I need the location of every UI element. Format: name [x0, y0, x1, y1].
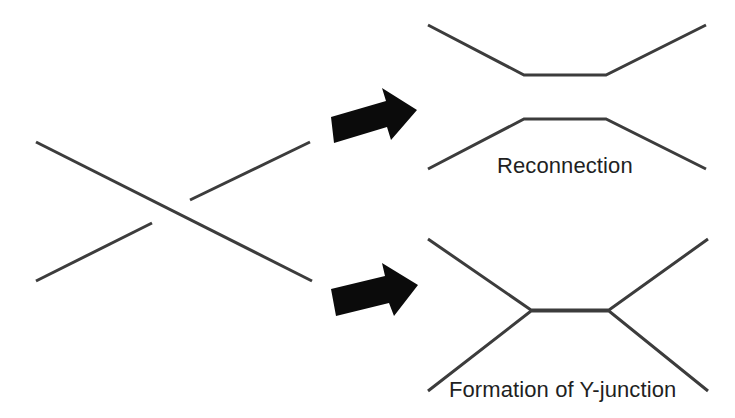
canvas-background	[0, 0, 735, 418]
diagram-canvas: Reconnection Formation of Y-junction	[0, 0, 735, 418]
diagram-root: Reconnection Formation of Y-junction	[0, 0, 735, 418]
reconnection-caption: Reconnection	[497, 153, 633, 178]
y-junction-caption: Formation of Y-junction	[449, 377, 676, 402]
